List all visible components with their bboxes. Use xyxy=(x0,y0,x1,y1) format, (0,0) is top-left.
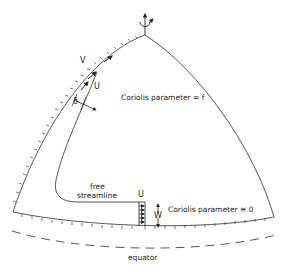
v-label: V xyxy=(80,57,85,65)
west-boundary-hatching xyxy=(13,36,137,202)
diagram-graphics xyxy=(0,0,289,272)
rotation-icon xyxy=(140,14,153,35)
u-label-top: U xyxy=(94,83,100,91)
east-boundary xyxy=(145,35,274,217)
free-label: free xyxy=(90,183,105,191)
delta-label: δ xyxy=(73,98,78,106)
w-label: W xyxy=(154,212,162,220)
equator-line xyxy=(12,231,276,248)
equator-label: equator xyxy=(128,254,157,262)
coriolis-zero-label: Coriolis parameter ≅ 0 xyxy=(168,206,253,214)
outflow-profile xyxy=(139,202,145,226)
south-boundary-hatching xyxy=(22,214,265,229)
u-label-bottom: U xyxy=(138,191,144,199)
west-boundary xyxy=(13,35,145,212)
coriolis-f-label: Coriolis parameter = f xyxy=(121,94,204,102)
streamline-label: streamline xyxy=(77,192,117,200)
ocean-basin-diagram: V U δ Coriolis parameter = f free stream… xyxy=(0,0,289,272)
